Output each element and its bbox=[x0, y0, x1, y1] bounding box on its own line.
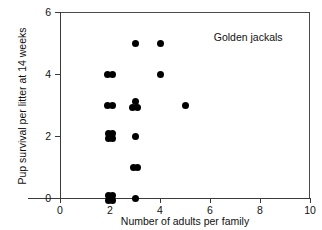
data-point bbox=[134, 104, 141, 111]
y-tick-mark bbox=[55, 74, 60, 75]
y-axis-line bbox=[60, 12, 61, 198]
x-tick-mark bbox=[310, 198, 311, 203]
chart-annotation: Golden jackals bbox=[214, 31, 283, 43]
data-point bbox=[182, 102, 189, 109]
y-tick-label: 0 bbox=[32, 192, 51, 204]
y-tick-mark bbox=[55, 136, 60, 137]
data-point bbox=[109, 102, 116, 109]
data-point bbox=[134, 164, 141, 171]
data-point bbox=[109, 197, 116, 204]
data-point bbox=[157, 71, 164, 78]
x-axis-line bbox=[28, 198, 310, 199]
scatter-chart: 0246810 0246 Golden jackals Number of ad… bbox=[0, 0, 322, 230]
data-point bbox=[109, 135, 116, 142]
y-tick-label: 4 bbox=[32, 68, 51, 80]
data-point bbox=[132, 133, 139, 140]
y-axis-label: Pup survival per litter at 14 weeks bbox=[16, 6, 28, 206]
x-axis-label: Number of adults per family bbox=[60, 215, 310, 227]
x-tick-mark bbox=[210, 198, 211, 203]
y-tick-mark bbox=[55, 12, 60, 13]
x-tick-mark bbox=[160, 198, 161, 203]
y-tick-mark bbox=[55, 198, 60, 199]
data-point bbox=[132, 195, 139, 202]
x-tick-mark bbox=[60, 198, 61, 203]
y-tick-label: 6 bbox=[32, 6, 51, 18]
x-tick-mark bbox=[260, 198, 261, 203]
data-point bbox=[157, 40, 164, 47]
data-point bbox=[132, 40, 139, 47]
y-tick-label: 2 bbox=[32, 130, 51, 142]
data-point bbox=[109, 71, 116, 78]
